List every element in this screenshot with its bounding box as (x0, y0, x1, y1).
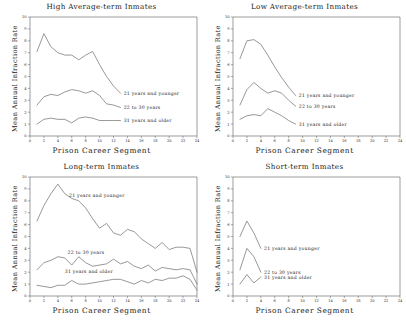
series-annotation: 31 years and older (299, 122, 348, 128)
y-tick-label: 9 (227, 27, 230, 31)
x-tick-label: 24 (195, 299, 200, 303)
axis-frame (233, 17, 400, 136)
x-tick-label: 16 (342, 139, 347, 143)
y-tick-label: 8 (227, 199, 230, 203)
x-tick-label: 18 (356, 299, 361, 303)
y-tick-label: 2 (227, 271, 229, 275)
y-tick-label: 10 (22, 15, 27, 19)
x-axis-label: Prison Career Segment (0, 306, 203, 315)
y-tick-label: 7 (227, 51, 230, 55)
panel-title: High Average-term Inmates (0, 2, 203, 11)
x-tick-label: 14 (328, 299, 333, 303)
y-tick-label: 6 (227, 63, 230, 67)
y-tick-label: 3 (24, 259, 27, 263)
y-tick-label: 8 (24, 199, 27, 203)
y-tick-label: 0 (227, 134, 230, 138)
x-tick-label: 20 (370, 299, 375, 303)
x-tick-label: 20 (167, 299, 172, 303)
panel-plot-3: 01234567891002468101214161820222421 year… (203, 160, 406, 320)
y-tick-label: 4 (227, 87, 230, 91)
x-tick-label: 0 (29, 299, 32, 303)
x-tick-label: 6 (274, 139, 277, 143)
series-annotation: 22 to 30 years (124, 105, 161, 111)
x-tick-label: 2 (246, 299, 248, 303)
y-tick-label: 1 (24, 283, 26, 287)
series-annotation: 31 years and older (124, 118, 173, 124)
y-tick-label: 6 (227, 223, 230, 227)
x-tick-label: 24 (195, 139, 200, 143)
y-tick-label: 1 (227, 123, 229, 127)
x-axis-label: Prison Career Segment (203, 146, 406, 155)
panel-title: Low Average-term Inmates (203, 2, 406, 11)
series-annotation: 31 years and older (65, 269, 114, 275)
series-line (240, 221, 261, 248)
x-tick-label: 0 (29, 139, 32, 143)
y-axis-label: Mean Annual Infraction Rate (214, 185, 222, 292)
x-tick-label: 18 (153, 299, 158, 303)
y-tick-label: 7 (24, 211, 27, 215)
x-tick-label: 24 (398, 139, 403, 143)
x-tick-label: 2 (246, 139, 248, 143)
x-tick-label: 4 (260, 299, 263, 303)
chart-panel-top-left: High Average-term Inmates012345678910024… (0, 0, 203, 160)
x-tick-label: 14 (125, 299, 130, 303)
y-tick-label: 2 (24, 111, 26, 115)
y-tick-label: 1 (227, 283, 229, 287)
x-tick-label: 22 (384, 139, 389, 143)
series-line (37, 117, 121, 124)
y-tick-label: 0 (24, 294, 27, 298)
y-tick-label: 6 (24, 63, 27, 67)
y-tick-label: 5 (227, 75, 230, 79)
series-line (37, 276, 197, 290)
y-axis-label: Mean Annual Infraction Rate (214, 25, 222, 132)
y-tick-label: 2 (227, 111, 229, 115)
x-tick-label: 12 (314, 299, 319, 303)
y-tick-label: 9 (24, 187, 27, 191)
axis-frame (233, 177, 400, 296)
y-tick-label: 10 (225, 15, 230, 19)
y-tick-label: 3 (227, 259, 230, 263)
figure-panel-grid: High Average-term Inmates012345678910024… (0, 0, 406, 320)
series-annotation: 31 years and older (264, 275, 313, 281)
panel-title: Long-term Inmates (0, 162, 203, 171)
series-annotation: 22 to 30 years (299, 104, 336, 110)
x-tick-label: 20 (370, 139, 375, 143)
x-tick-label: 6 (274, 299, 277, 303)
x-tick-label: 22 (384, 299, 389, 303)
x-tick-label: 22 (181, 299, 186, 303)
x-tick-label: 18 (153, 139, 158, 143)
y-tick-label: 5 (227, 235, 230, 239)
x-tick-label: 8 (288, 139, 291, 143)
y-tick-label: 6 (24, 223, 27, 227)
x-tick-label: 20 (167, 139, 172, 143)
x-tick-label: 6 (71, 299, 74, 303)
x-tick-label: 22 (181, 139, 186, 143)
y-tick-label: 8 (24, 39, 27, 43)
x-tick-label: 0 (232, 299, 235, 303)
series-annotation: 21 years and younger (69, 193, 125, 199)
chart-panel-top-right: Low Average-term Inmates0123456789100246… (203, 0, 406, 160)
series-line (37, 34, 121, 94)
x-tick-label: 10 (97, 299, 102, 303)
series-line (240, 40, 296, 96)
series-line (240, 82, 296, 106)
x-tick-label: 2 (43, 139, 45, 143)
x-tick-label: 16 (139, 139, 144, 143)
panel-plot-0: 01234567891002468101214161820222421 year… (0, 0, 203, 160)
series-annotation: 21 years and younger (299, 93, 355, 99)
y-tick-label: 3 (227, 99, 230, 103)
series-line (37, 257, 197, 284)
x-tick-label: 18 (356, 139, 361, 143)
x-tick-label: 4 (260, 139, 263, 143)
x-tick-label: 10 (97, 139, 102, 143)
x-tick-label: 4 (57, 299, 60, 303)
panel-plot-2: 01234567891002468101214161820222421 year… (0, 160, 203, 320)
series-line (240, 275, 261, 285)
panel-title: Short-term Inmates (203, 162, 406, 171)
y-tick-label: 3 (24, 99, 27, 103)
series-annotation: 22 to 30 years (68, 250, 105, 256)
x-tick-label: 16 (342, 299, 347, 303)
x-tick-label: 8 (85, 139, 88, 143)
x-tick-label: 6 (71, 139, 74, 143)
series-line (37, 90, 121, 108)
